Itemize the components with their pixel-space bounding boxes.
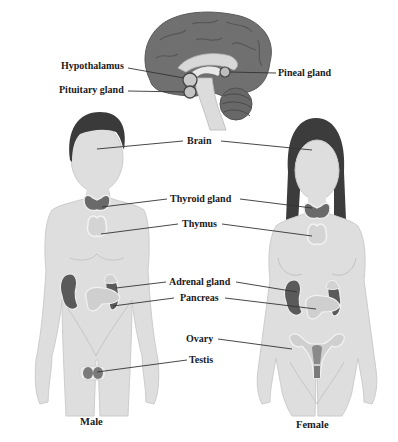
label-hypothalamus: Hypothalamus xyxy=(61,60,124,72)
caption-male: Male xyxy=(80,416,103,428)
brain-illustration xyxy=(145,12,271,130)
label-pancreas: Pancreas xyxy=(180,292,219,304)
label-thyroid-gland: Thyroid gland xyxy=(170,193,231,205)
caption-female: Female xyxy=(296,419,329,431)
endocrine-diagram: Hypothalamus Pituitary gland Pineal glan… xyxy=(0,0,398,442)
label-thymus: Thymus xyxy=(182,218,217,230)
label-testis: Testis xyxy=(189,354,213,366)
male-figure xyxy=(35,112,159,416)
label-ovary: Ovary xyxy=(186,333,213,345)
female-figure xyxy=(257,118,377,416)
label-brain: Brain xyxy=(187,135,211,147)
label-adrenal-gland: Adrenal gland xyxy=(169,276,230,288)
label-pineal-gland: Pineal gland xyxy=(278,67,331,79)
label-pituitary-gland: Pituitary gland xyxy=(59,84,124,96)
